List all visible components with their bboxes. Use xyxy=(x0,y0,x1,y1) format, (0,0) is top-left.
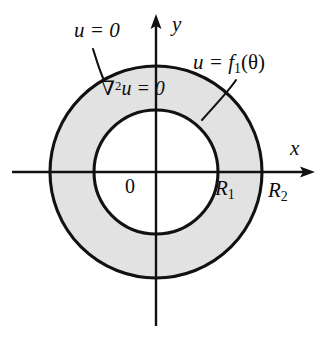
outer-radius-symbol: R xyxy=(268,178,281,202)
inner-radius-symbol: R xyxy=(215,176,228,200)
inner-radius-subscript: 1 xyxy=(228,187,235,202)
outer-boundary-condition-label: u = 0 xyxy=(74,20,120,41)
annulus-diagram-svg xyxy=(0,0,329,339)
laplace-equation-label: ∇2u = 0 xyxy=(101,78,165,98)
inner-boundary-condition-subscript: 1 xyxy=(234,61,241,76)
outer-boundary-leader-line xyxy=(93,49,103,78)
outer-radius-label: R2 xyxy=(268,180,288,204)
laplace-equation-text: u = 0 xyxy=(121,77,165,99)
x-axis-label-text: x xyxy=(290,136,299,160)
figure-diagram: u = 0 u = f1(θ) ∇2u = 0 0 R1 R2 x y xyxy=(0,0,329,339)
origin-label: 0 xyxy=(125,176,135,196)
inner-boundary-condition-prefix: u = f xyxy=(193,50,234,74)
outer-boundary-condition-text: u = 0 xyxy=(74,18,120,42)
origin-text: 0 xyxy=(125,175,135,197)
x-axis-label: x xyxy=(290,138,299,159)
y-axis-label: y xyxy=(172,14,181,35)
y-axis-label-text: y xyxy=(172,12,181,36)
outer-radius-subscript: 2 xyxy=(281,189,288,204)
inner-boundary-condition-argument: (θ) xyxy=(241,50,265,74)
inner-boundary-condition-label: u = f1(θ) xyxy=(193,52,265,76)
nabla-icon: ∇ xyxy=(101,77,115,99)
inner-radius-label: R1 xyxy=(215,178,235,202)
